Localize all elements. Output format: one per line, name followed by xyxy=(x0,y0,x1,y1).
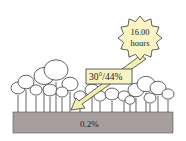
tree-crown xyxy=(162,89,174,99)
forest-floor-light-percent: 0.2% xyxy=(80,119,99,129)
tree-crown xyxy=(56,87,68,97)
angle-transmission-label: 30°/44% xyxy=(86,69,132,84)
svg-text:30°/44%: 30°/44% xyxy=(89,72,122,82)
tree-crown xyxy=(43,84,57,96)
sun-time-unit: hours xyxy=(131,38,150,48)
tree-crown xyxy=(125,96,135,105)
tree-crown xyxy=(30,85,42,95)
canopy-light-diagram: 0.2% 30°/44% 16.00 hours xyxy=(0,0,186,141)
tree-canopy xyxy=(11,60,174,112)
sun-icon: 16.00 hours xyxy=(118,16,162,60)
sun-time-value: 16.00 xyxy=(130,27,149,37)
tree-crown xyxy=(144,93,156,103)
tree-crown xyxy=(105,88,119,100)
tree-crown xyxy=(44,60,68,80)
